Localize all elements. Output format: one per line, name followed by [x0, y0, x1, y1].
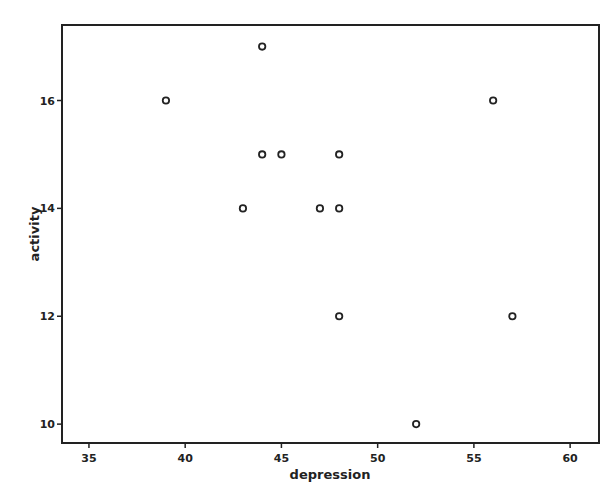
- y-axis-title: activity: [27, 206, 42, 261]
- x-tick-label: 55: [466, 452, 481, 465]
- x-axis-title: depression: [290, 467, 371, 482]
- y-tick-label: 16: [40, 95, 56, 108]
- y-tick-label: 14: [40, 202, 56, 215]
- x-tick-label: 35: [81, 452, 96, 465]
- plot-frame: [62, 25, 599, 443]
- scatter-chart: 354045505560 10121416 depression activit…: [0, 0, 606, 496]
- x-axis-ticks: 354045505560: [81, 443, 578, 465]
- y-tick-label: 10: [40, 418, 56, 431]
- x-tick-label: 45: [274, 452, 289, 465]
- x-tick-label: 50: [370, 452, 386, 465]
- y-axis-ticks: 10121416: [40, 95, 62, 432]
- x-tick-label: 60: [562, 452, 578, 465]
- x-tick-label: 40: [178, 452, 194, 465]
- y-tick-label: 12: [40, 310, 55, 323]
